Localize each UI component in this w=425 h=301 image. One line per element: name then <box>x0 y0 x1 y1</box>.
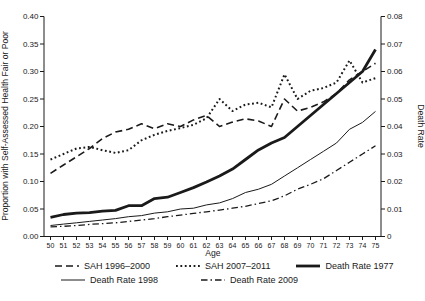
chart: 0.000.050.100.150.200.250.300.350.4000.0… <box>0 0 425 260</box>
legend-line-sample-dotted <box>175 262 201 270</box>
y-left-tick-label: 0.30 <box>23 67 39 76</box>
legend-item-sah-2007-2011: SAH 2007–2011 <box>175 261 270 271</box>
series-death-rate-2009 <box>51 146 376 227</box>
y-left-tick-label: 0.35 <box>23 40 39 49</box>
y-right-tick-label: 0.05 <box>387 95 403 104</box>
x-tick-label: 50 <box>47 242 55 249</box>
legend-item-death-rate-1977: Death Rate 1977 <box>295 261 393 271</box>
legend-row-1: SAH 1996–2000SAH 2007–2011Death Rate 197… <box>0 259 425 273</box>
legend-item-sah-1996-2000: SAH 1996–2000 <box>54 261 150 271</box>
series-death-rate-1998 <box>51 111 376 225</box>
x-axis-label: Age <box>205 248 221 258</box>
y-left-tick-label: 0.00 <box>23 232 39 241</box>
y-left-tick-label: 0.25 <box>23 95 39 104</box>
x-tick-label: 74 <box>359 242 367 249</box>
x-tick-label: 73 <box>346 242 354 249</box>
legend-label-death-rate-2009: Death Rate 2009 <box>230 275 298 285</box>
legend-label-death-rate-1998: Death Rate 1998 <box>90 275 158 285</box>
y-right-tick-label: 0.01 <box>387 205 403 214</box>
x-tick-label: 52 <box>73 242 81 249</box>
y-right-tick-label: 0.08 <box>387 12 403 21</box>
y-left-tick-label: 0.40 <box>23 12 39 21</box>
series-sah-1996-2000 <box>51 63 376 173</box>
y-left-tick-label: 0.20 <box>23 122 39 131</box>
legend-label-death-rate-1977: Death Rate 1977 <box>325 261 393 271</box>
legend-line-sample-dashed <box>54 262 80 270</box>
legend-label-sah-2007-2011: SAH 2007–2011 <box>205 261 270 271</box>
x-tick-label: 57 <box>138 242 146 249</box>
legend-line-sample-dashdot <box>200 276 226 284</box>
legend-row-2: Death Rate 1998Death Rate 2009 <box>0 273 425 287</box>
x-tick-label: 67 <box>268 242 276 249</box>
y-right-tick-label: 0.02 <box>387 177 403 186</box>
y-right-tick-label: 0.06 <box>387 67 403 76</box>
x-tick-label: 69 <box>294 242 302 249</box>
x-tick-label: 68 <box>281 242 289 249</box>
y-left-tick-label: 0.15 <box>23 150 39 159</box>
x-tick-label: 54 <box>99 242 107 249</box>
y-axis-label-left: Proportion with Self-Assessed Health Fai… <box>0 31 10 221</box>
figure: 0.000.050.100.150.200.250.300.350.4000.0… <box>0 0 425 301</box>
y-left-tick-label: 0.10 <box>23 177 39 186</box>
x-tick-label: 56 <box>125 242 133 249</box>
y-left-tick-label: 0.05 <box>23 205 39 214</box>
x-tick-label: 61 <box>190 242 198 249</box>
x-tick-label: 70 <box>307 242 315 249</box>
x-tick-label: 53 <box>86 242 94 249</box>
x-tick-label: 59 <box>164 242 172 249</box>
x-tick-label: 60 <box>177 242 185 249</box>
y-axis-label-right: Death Rate <box>416 104 425 148</box>
series-lines <box>51 50 376 227</box>
x-tick-label: 55 <box>112 242 120 249</box>
legend-item-death-rate-1998: Death Rate 1998 <box>60 275 158 285</box>
legend-label-sah-1996-2000: SAH 1996–2000 <box>84 261 150 271</box>
legend-line-sample-thin <box>60 276 86 284</box>
y-right-tick-label: 0.04 <box>387 122 403 131</box>
y-right-tick-label: 0.03 <box>387 150 403 159</box>
legend-line-sample-thick <box>295 262 321 270</box>
x-tick-label: 65 <box>242 242 250 249</box>
x-tick-label: 75 <box>372 242 380 249</box>
series-death-rate-1977 <box>51 50 376 218</box>
x-tick-label: 72 <box>333 242 341 249</box>
x-tick-label: 71 <box>320 242 328 249</box>
x-tick-label: 66 <box>255 242 263 249</box>
x-tick-label: 58 <box>151 242 159 249</box>
y-right-tick-label: 0 <box>387 232 392 241</box>
x-tick-label: 51 <box>60 242 68 249</box>
legend: SAH 1996–2000SAH 2007–2011Death Rate 197… <box>0 259 425 287</box>
x-tick-label: 64 <box>229 242 237 249</box>
legend-item-death-rate-2009: Death Rate 2009 <box>200 275 298 285</box>
series-sah-2007-2011 <box>51 61 376 160</box>
y-right-tick-label: 0.07 <box>387 40 403 49</box>
